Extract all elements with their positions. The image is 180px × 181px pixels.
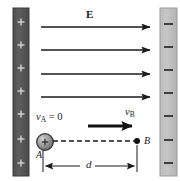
electric-field-arrows (41, 27, 150, 97)
initial-velocity-label: vA = 0 (36, 112, 63, 124)
point-b-label: B (144, 136, 150, 146)
positive-plate (13, 8, 29, 176)
final-velocity-label: vB (125, 107, 135, 119)
distance-label-d: d (86, 159, 92, 170)
physics-figure-parallel-plates: E vA = 0 vB A B d (0, 0, 180, 181)
final-velocity-subscript: B (130, 110, 135, 119)
field-label-E: E (86, 9, 94, 20)
charged-sphere (37, 134, 54, 151)
point-a-label: A (36, 150, 42, 160)
point-b-dot (134, 138, 140, 144)
figure-canvas (0, 0, 180, 181)
negative-plate (160, 8, 177, 176)
initial-velocity-value: = 0 (46, 111, 62, 122)
